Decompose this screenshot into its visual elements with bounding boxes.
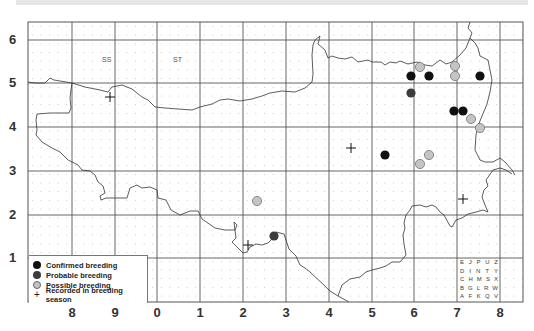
tetrad-key-row: BGLRW [458,284,500,293]
probable-breeding-dot [269,231,278,240]
legend-label: Probable breeding [46,271,112,280]
possible-breeding-dot [415,159,424,168]
tetrad-letter: N [476,267,480,276]
tetrad-letter: A [460,292,464,301]
tetrad-letter: S [486,275,490,284]
tetrad-letter: L [477,284,480,293]
tetrad-letter: C [460,275,464,284]
tetrad-key-row: CHMSX [458,275,500,284]
tetrad-letter: I [469,267,471,276]
y-axis-label: 4 [9,119,16,134]
x-axis-label: 7 [447,305,467,320]
tetrad-letter: M [477,275,482,284]
probable-dot-icon [33,271,41,279]
legend-item-probable: Probable breeding [33,270,147,280]
possible-breeding-dot [475,123,484,132]
records-layer [105,61,485,250]
x-axis-label: 9 [105,305,125,320]
x-axis-label: 1 [190,305,210,320]
y-axis-label: 1 [9,250,16,265]
x-axis-label: 8 [490,305,510,320]
probable-breeding-dot [406,88,415,97]
tetrad-letter: P [476,258,480,267]
legend-label: Recorded in breeding season [46,286,147,304]
tetrad-letter: T [485,267,489,276]
recorded-in-season-cross-icon [458,194,468,204]
confirmed-breeding-dot [406,71,415,80]
x-axis-label: 2 [233,305,253,320]
legend-label: Confirmed breeding [46,261,117,270]
confirmed-breeding-dot [424,71,433,80]
x-axis-label: 4 [319,305,339,320]
tetrad-key: EJPUZDINTYCHMSXBGLRWAFKQV [458,258,500,301]
tetrad-letter: Q [485,292,490,301]
recorded-in-season-cross-icon [243,240,253,250]
legend-item-recorded: + Recorded in breeding season [33,290,147,300]
square-label: ST [173,56,182,63]
cross-icon: + [33,291,41,299]
x-axis-label: 5 [362,305,382,320]
x-axis-label: 8 [62,305,82,320]
y-axis-label: 2 [9,207,16,222]
x-axis-label: 0 [147,305,167,320]
recorded-in-season-cross-icon [105,92,115,102]
tetrad-letter: K [476,292,480,301]
confirmed-breeding-dot [458,106,467,115]
tetrad-letter: Z [494,258,498,267]
tetrad-key-row: EJPUZ [458,258,500,267]
confirmed-breeding-dot [449,106,458,115]
tetrad-letter: D [460,267,464,276]
confirmed-breeding-dot [380,150,389,159]
possible-breeding-dot [450,61,459,70]
tetrad-letter: R [484,284,488,293]
possible-breeding-dot [424,150,433,159]
tetrad-letter: W [492,284,498,293]
tetrad-letter: E [460,258,464,267]
tetrad-letter: J [469,258,472,267]
possible-breeding-dot [450,71,459,80]
y-axis-label: 3 [9,163,16,178]
tetrad-letter: F [468,292,472,301]
x-axis-label: 3 [276,305,296,320]
x-axis-label: 6 [404,305,424,320]
recorded-in-season-cross-icon [346,143,356,153]
tetrad-letter: X [494,275,498,284]
y-axis-label: 5 [9,75,16,90]
square-label: SS [102,56,111,63]
legend-item-confirmed: Confirmed breeding [33,260,147,270]
tetrad-letter: V [494,292,498,301]
legend: Confirmed breeding Probable breeding Pos… [29,255,148,303]
possible-breeding-dot [466,114,475,123]
tetrad-key-row: AFKQV [458,292,500,301]
tetrad-key-row: DINTY [458,267,500,276]
tetrad-letter: U [485,258,489,267]
possible-dot-icon [33,281,41,289]
tetrad-letter: B [460,284,464,293]
tetrad-letter: Y [494,267,498,276]
tetrad-letter: G [468,284,473,293]
confirmed-dot-icon [33,261,41,269]
possible-breeding-dot [415,62,424,71]
tetrad-letter: H [468,275,472,284]
possible-breeding-dot [252,196,261,205]
y-axis-label: 6 [9,32,16,47]
confirmed-breeding-dot [475,71,484,80]
